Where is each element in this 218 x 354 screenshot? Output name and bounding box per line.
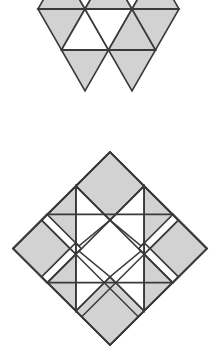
- diamond-quilt-shapes: [13, 152, 207, 345]
- diamond-quilt-svg: [0, 130, 218, 354]
- triangle-r0-c2-shaded: [85, 0, 132, 9]
- triangular-grid-shapes: [38, 0, 179, 91]
- page-root: [0, 0, 218, 354]
- triangle-r0-c4-shaded: [132, 0, 179, 9]
- triangle-r0-c0-shaded: [38, 0, 85, 9]
- triangle-r2-c1-shaded: [109, 50, 156, 91]
- figure-bottom-diamond-quilt: [0, 130, 218, 354]
- triangle-r2-c0-shaded: [62, 50, 109, 91]
- triangular-grid-svg: [0, 0, 218, 110]
- figure-top-triangular-grid: [0, 0, 218, 110]
